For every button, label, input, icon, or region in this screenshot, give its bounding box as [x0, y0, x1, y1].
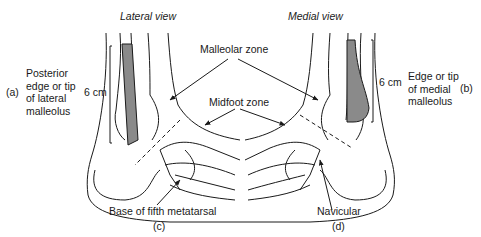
malleolar-zone-label: Malleolar zone: [200, 43, 268, 55]
base-fifth-metatarsal-label: Base of fifth metatarsal: [109, 205, 216, 217]
medial-tibia-shaded: [347, 40, 369, 122]
arrow-midfoot-right: [240, 109, 285, 125]
lateral-landmark-label: Posterior edge or tip of lateral malleol…: [26, 67, 76, 117]
panel-a-label: (a): [6, 86, 19, 98]
lateral-fibula-shaded: [122, 44, 138, 145]
ankle-foot-diagram: [0, 0, 481, 237]
medial-landmark-label: Edge or tip of medial malleolus: [408, 70, 459, 108]
panel-c-label: (c): [153, 220, 165, 232]
panel-d-label: (d): [332, 220, 345, 232]
navicular-label: Navicular: [317, 205, 361, 217]
lateral-leg-outline-back: [87, 33, 250, 222]
arrow-malleolar-left: [170, 59, 228, 100]
measure-left-label: 6 cm: [84, 86, 107, 98]
arrow-malleolar-right: [238, 59, 318, 100]
lateral-view-title: Lateral view: [120, 10, 176, 22]
panel-b-label: (b): [460, 82, 473, 94]
medial-view-title: Medial view: [288, 10, 343, 22]
arrow-fifth-metatarsal: [157, 180, 180, 205]
midfoot-zone-label: Midfoot zone: [209, 96, 269, 108]
arrow-midfoot-left: [205, 109, 235, 125]
measure-right-label: 6 cm: [379, 76, 402, 88]
